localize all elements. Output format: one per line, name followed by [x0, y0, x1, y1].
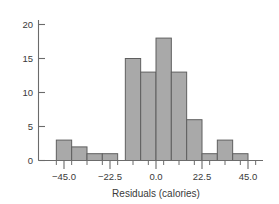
- histogram-bar: [125, 59, 140, 161]
- residuals-histogram: 0 5 10 15 20 −45.0 −22.5 0.0 22.5 45.0 R…: [0, 0, 279, 204]
- histogram-bar: [217, 140, 232, 160]
- y-tick-label-0: 0: [28, 155, 33, 166]
- x-tick-label-45: 45.0: [239, 171, 258, 182]
- histogram-bar: [102, 154, 117, 161]
- y-tick-label-10: 10: [22, 87, 33, 98]
- x-axis-title: Residuals (calories): [112, 188, 200, 199]
- histogram-bar: [87, 154, 102, 161]
- histogram-bar: [141, 72, 156, 160]
- histogram-bar: [56, 140, 71, 160]
- histogram-bar: [156, 38, 171, 160]
- histogram-figure: 0 5 10 15 20 −45.0 −22.5 0.0 22.5 45.0 R…: [0, 0, 279, 204]
- histogram-bar: [72, 147, 87, 161]
- histogram-bar: [233, 154, 248, 161]
- y-tick-label-5: 5: [28, 121, 33, 132]
- histogram-bar: [171, 72, 186, 160]
- y-tick-label-20: 20: [22, 19, 33, 30]
- histogram-bar: [202, 154, 217, 161]
- x-tick-label-0: 0.0: [149, 171, 162, 182]
- x-tick-label-neg45: −45.0: [52, 171, 76, 182]
- x-tick-label-neg225: −22.5: [98, 171, 122, 182]
- histogram-bar: [187, 120, 202, 161]
- y-tick-label-15: 15: [22, 53, 33, 64]
- x-tick-label-225: 22.5: [193, 171, 212, 182]
